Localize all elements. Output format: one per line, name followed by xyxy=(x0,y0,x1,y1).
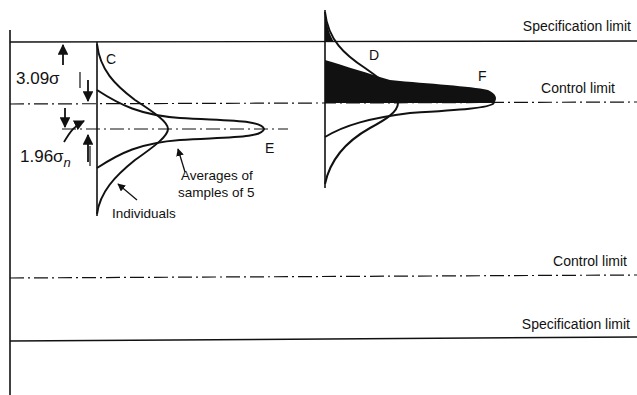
averages-label-line2: samples of 5 xyxy=(178,185,255,200)
dimension-3-09-sigma: 3.09σ xyxy=(16,69,60,88)
individuals-curve-c xyxy=(97,44,168,214)
averages-curve-f xyxy=(325,103,494,137)
arrow-1-96-diagonal xyxy=(64,121,84,142)
curve-label-e: E xyxy=(265,140,274,156)
distribution-group-right: D F xyxy=(325,10,496,188)
lower-spec-limit-label: Specification limit xyxy=(522,316,630,332)
lower-spec-limit-line xyxy=(10,337,637,341)
averages-out-of-control-fill xyxy=(325,60,496,103)
averages-label-line1: Averages of xyxy=(181,168,253,183)
control-chart-diagram: Specification limit Control limit Contro… xyxy=(0,0,637,395)
upper-spec-limit-line xyxy=(10,41,637,42)
dimension-1-96-main: 1.96σ xyxy=(20,147,64,166)
curve-label-c: C xyxy=(106,51,116,67)
curve-label-d: D xyxy=(369,47,379,63)
lower-control-limit-line xyxy=(10,275,637,278)
dimension-1-96-sigma: 1.96σn xyxy=(20,147,71,170)
upper-spec-limit-label: Specification limit xyxy=(523,18,631,34)
lower-control-limit-label: Control limit xyxy=(553,253,627,269)
upper-control-limit-line xyxy=(10,102,637,104)
dimension-annotations: 3.09σ 1.96σn xyxy=(16,45,90,170)
curve-label-f: F xyxy=(478,68,487,84)
individuals-pointer xyxy=(118,184,137,200)
individuals-label: Individuals xyxy=(112,206,176,221)
dimension-1-96-subscript: n xyxy=(64,155,71,170)
upper-control-limit-label: Control limit xyxy=(541,80,615,96)
callouts: Averages of samples of 5 Individuals xyxy=(112,149,255,221)
